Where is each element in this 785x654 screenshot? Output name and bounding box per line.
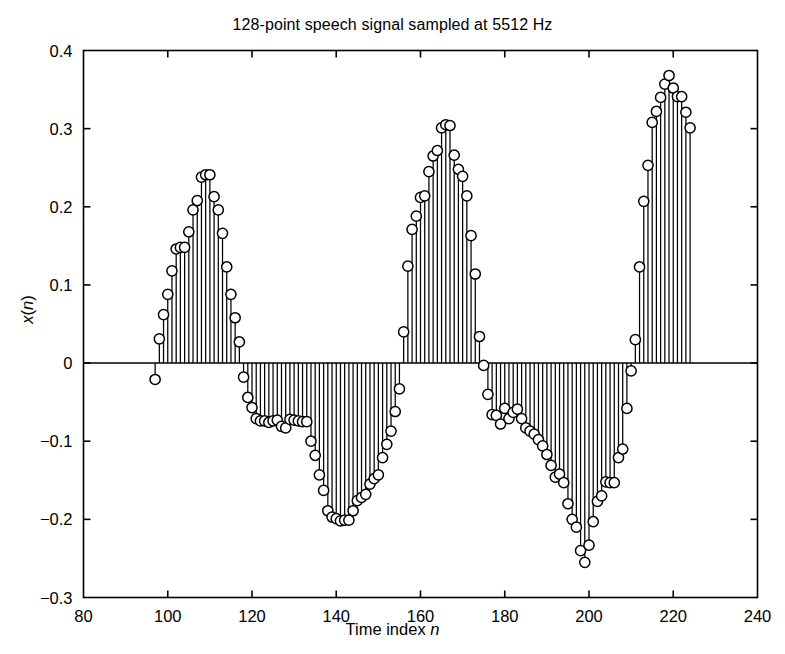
stem-marker [597,491,607,501]
stem-marker [424,167,434,177]
stem-marker [192,195,202,205]
stem-marker [639,196,649,206]
stem-marker [634,262,644,272]
stem-marker [310,450,320,460]
stem-marker [474,331,484,341]
stem-marker [222,262,232,272]
stem-marker [243,392,253,402]
stem-marker [180,242,190,252]
stem-marker [664,70,674,80]
stem-marker [234,337,244,347]
stem-marker [420,191,430,201]
stem-marker [154,334,164,344]
stem-marker [466,231,476,241]
figure-container: 128-point speech signal sampled at 5512 … [0,0,785,654]
y-tick-label: 0.1 [50,276,73,294]
y-tick-label: 0.2 [50,198,73,216]
stem-marker [580,557,590,567]
stem-marker [407,224,417,234]
stem-marker [677,92,687,102]
stem-marker [681,107,691,117]
stem-marker [386,426,396,436]
stem-marker [542,449,552,459]
y-axis-label: x(n) [18,270,37,350]
stem-marker [209,192,219,202]
stem-marker [361,489,371,499]
stem-marker [685,123,695,133]
stem-marker [584,540,594,550]
stem-marker [656,92,666,102]
stem-marker [403,261,413,271]
stem-marker [319,485,329,495]
stem-marker [382,439,392,449]
stem-marker [588,517,598,527]
stem-marker [559,478,569,488]
y-tick-label: −0.2 [40,510,73,528]
y-tick-label: 0.3 [50,120,73,138]
stem-markers-group [150,70,695,567]
stem-marker [630,335,640,345]
stem-marker [213,205,223,215]
stem-marker [458,171,468,181]
stem-marker [411,211,421,221]
stem-marker [314,470,324,480]
stem-marker [302,417,312,427]
stem-marker [167,266,177,276]
stem-marker [306,436,316,446]
stem-marker [163,289,173,299]
stem-marker [394,384,404,394]
stem-marker [432,145,442,155]
stem-marker [563,499,573,509]
stem-marker [230,313,240,323]
stem-marker [470,269,480,279]
stem-marker [348,506,358,516]
stem-marker [205,170,215,180]
stem-marker [390,406,400,416]
stem-marker [238,372,248,382]
stem-marker [247,403,257,413]
stem-marker [217,228,227,238]
stem-marker [651,106,661,116]
stem-marker [226,289,236,299]
stem-marker [622,403,632,413]
stem-marker [479,360,489,370]
stem-marker [150,374,160,384]
y-tick-label: 0.4 [50,42,73,60]
stem-marker [158,310,168,320]
stem-plot-svg: 80100120140160180200220240−0.3−0.2−0.100… [0,0,785,654]
y-tick-label: −0.1 [40,432,73,450]
stem-marker [618,444,628,454]
stem-marker [445,120,455,130]
stem-marker [483,389,493,399]
stem-marker [373,470,383,480]
stem-marker [647,117,657,127]
stem-marker [609,478,619,488]
y-tick-label: 0 [63,354,72,372]
stem-marker [546,460,556,470]
stem-marker [184,227,194,237]
x-axis-label: Time index n [0,620,785,639]
stem-marker [399,327,409,337]
stem-marker [626,366,636,376]
stem-marker [377,453,387,463]
stem-marker [449,150,459,160]
y-tick-label: −0.3 [40,589,73,607]
stem-marker [643,160,653,170]
stem-marker [571,522,581,532]
stem-marker [462,191,472,201]
